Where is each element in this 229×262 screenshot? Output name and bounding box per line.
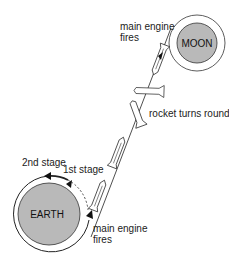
second-stage-arrow-icon (44, 172, 51, 180)
label-main-engine-fires-top-1: main engine (120, 21, 175, 32)
earth-label: EARTH (30, 209, 64, 220)
label-first-stage: 1st stage (63, 164, 104, 175)
rocket-departing-earth (88, 178, 109, 211)
rocket-approaching-moon (149, 43, 170, 76)
trajectory-diagram: MOON EARTH main engine (0, 0, 229, 262)
label-main-engine-fires-bottom-1: main engine (93, 223, 148, 234)
moon: MOON (169, 15, 225, 71)
label-main-engine-fires-bottom-2: fires (93, 234, 112, 245)
label-second-stage: 2nd stage (22, 157, 66, 168)
label-rocket-turns-round: rocket turns round (149, 108, 229, 119)
rocket-coasting (107, 135, 128, 168)
first-stage-arrow-icon (66, 180, 72, 188)
moon-label: MOON (181, 38, 212, 49)
rocket-turning-tilted (127, 99, 148, 128)
orbit-exit-arrow-icon (86, 210, 93, 219)
earth: EARTH (14, 172, 93, 252)
label-main-engine-fires-top-2: fires (120, 32, 139, 43)
